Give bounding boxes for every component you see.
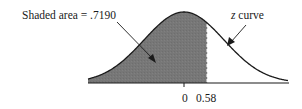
- z-curve-label: z curve: [231, 10, 264, 22]
- tick-label-zero: 0: [182, 93, 188, 105]
- z-curve-text: curve: [235, 9, 263, 21]
- shaded-area-prefix: Shaded area =: [22, 9, 90, 21]
- shaded-area-label: Shaded area = .7190: [22, 10, 116, 22]
- shaded-area-value: .7190: [90, 9, 116, 21]
- z-curve-leader-line: [231, 25, 246, 42]
- tick-label-cutoff: 0.58: [196, 93, 216, 105]
